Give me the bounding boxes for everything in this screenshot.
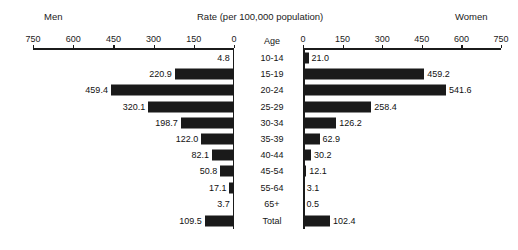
women-bar <box>303 85 446 96</box>
axis-tick-label: 750 <box>25 34 40 44</box>
pyramid-row: 109.5Total102.4 <box>0 213 518 229</box>
axis-tick <box>382 45 383 49</box>
women-bar-cell: 459.2 <box>303 66 501 82</box>
age-group-label: 15-19 <box>243 66 301 82</box>
axis-tick <box>234 45 235 49</box>
pyramid-row: 459.420-24541.6 <box>0 82 518 98</box>
men-bar <box>201 134 234 145</box>
men-bar-cell: 17.1 <box>33 180 234 196</box>
men-bar-cell: 220.9 <box>33 66 234 82</box>
population-pyramid-figure: Men Rate (per 100,000 population) Women … <box>0 0 518 250</box>
men-bar <box>205 215 234 226</box>
women-group-label: Women <box>455 11 488 22</box>
men-value-label: 220.9 <box>149 70 172 79</box>
age-group-label: 35-39 <box>243 131 301 147</box>
men-bar <box>212 150 234 161</box>
men-bar-cell: 3.7 <box>33 196 234 212</box>
men-group-label: Men <box>44 11 62 22</box>
age-group-label: 40-44 <box>243 147 301 163</box>
age-group-label: 20-24 <box>243 82 301 98</box>
women-value-label: 258.4 <box>374 102 397 111</box>
women-bar-cell: 3.1 <box>303 180 501 196</box>
men-value-label: 4.8 <box>217 54 230 63</box>
pyramid-row: 50.845-5412.1 <box>0 163 518 179</box>
axis-tick <box>194 45 195 49</box>
axis-tick-label: 0 <box>300 34 305 44</box>
men-bar <box>181 117 234 128</box>
women-bar-cell: 258.4 <box>303 99 501 115</box>
women-bar-cell: 126.2 <box>303 115 501 131</box>
pyramid-row: 82.140-4430.2 <box>0 147 518 163</box>
men-bar <box>233 198 234 209</box>
men-bar <box>148 101 234 112</box>
women-bar-cell: 30.2 <box>303 147 501 163</box>
women-bar-cell: 541.6 <box>303 82 501 98</box>
men-value-label: 50.8 <box>200 167 218 176</box>
pyramid-row: 320.125-29258.4 <box>0 99 518 115</box>
axis-tick <box>422 45 423 49</box>
men-bar-cell: 122.0 <box>33 131 234 147</box>
age-group-label: 10-14 <box>243 50 301 66</box>
men-value-label: 459.4 <box>85 86 108 95</box>
women-bar-cell: 102.4 <box>303 213 501 229</box>
axis-tick <box>501 45 502 49</box>
women-value-label: 0.5 <box>307 199 320 208</box>
men-bar <box>175 69 234 80</box>
women-bar <box>303 215 330 226</box>
men-value-label: 82.1 <box>191 151 209 160</box>
men-bar-cell: 50.8 <box>33 163 234 179</box>
men-bar <box>220 166 234 177</box>
women-bar <box>303 166 306 177</box>
women-value-label: 3.1 <box>307 183 320 192</box>
men-bar-cell: 320.1 <box>33 99 234 115</box>
pyramid-row: 198.730-34126.2 <box>0 115 518 131</box>
women-bar <box>303 134 320 145</box>
pyramid-rows: 4.810-1421.0220.915-19459.2459.420-24541… <box>0 50 518 229</box>
age-group-label: 30-34 <box>243 115 301 131</box>
axis-tick <box>461 45 462 49</box>
women-bar-cell: 0.5 <box>303 196 501 212</box>
women-bar <box>303 182 304 193</box>
women-bar <box>303 117 336 128</box>
women-value-label: 102.4 <box>333 216 356 225</box>
men-bar <box>233 53 234 64</box>
men-value-label: 3.7 <box>217 199 230 208</box>
pyramid-row: 220.915-19459.2 <box>0 66 518 82</box>
age-group-label: 55-64 <box>243 180 301 196</box>
women-bar <box>303 69 424 80</box>
age-group-label: 25-29 <box>243 99 301 115</box>
right-axis: 0150300450600750 <box>303 32 501 50</box>
men-bar-cell: 82.1 <box>33 147 234 163</box>
axis-tick-label: 450 <box>106 34 121 44</box>
axis-tick <box>343 45 344 49</box>
women-value-label: 30.2 <box>314 151 332 160</box>
men-bar <box>229 182 234 193</box>
pyramid-row: 122.035-3962.9 <box>0 131 518 147</box>
women-value-label: 459.2 <box>427 70 450 79</box>
women-bar-cell: 21.0 <box>303 50 501 66</box>
men-bar-cell: 459.4 <box>33 82 234 98</box>
axis-tick <box>33 45 34 49</box>
axis-tick-label: 150 <box>186 34 201 44</box>
axis-tick-label: 600 <box>66 34 81 44</box>
axis-tick-label: 450 <box>414 34 429 44</box>
axis-tick-label: 300 <box>146 34 161 44</box>
men-value-label: 320.1 <box>123 102 146 111</box>
women-value-label: 541.6 <box>449 86 472 95</box>
women-value-label: 21.0 <box>312 54 330 63</box>
women-bar-cell: 12.1 <box>303 163 501 179</box>
women-value-label: 12.1 <box>309 167 327 176</box>
left-axis: 7506004503001500 <box>33 32 234 50</box>
axis-tick <box>303 45 304 49</box>
pyramid-row: 17.155-643.1 <box>0 180 518 196</box>
men-bar-cell: 198.7 <box>33 115 234 131</box>
men-value-label: 122.0 <box>176 135 199 144</box>
women-bar-cell: 62.9 <box>303 131 501 147</box>
axis-tick-label: 300 <box>375 34 390 44</box>
men-bar-cell: 109.5 <box>33 213 234 229</box>
men-bar <box>111 85 234 96</box>
age-column-header: Age <box>243 36 301 46</box>
axis-tick-label: 750 <box>493 34 508 44</box>
chart-title: Rate (per 100,000 population) <box>197 11 323 22</box>
women-bar <box>303 53 309 64</box>
